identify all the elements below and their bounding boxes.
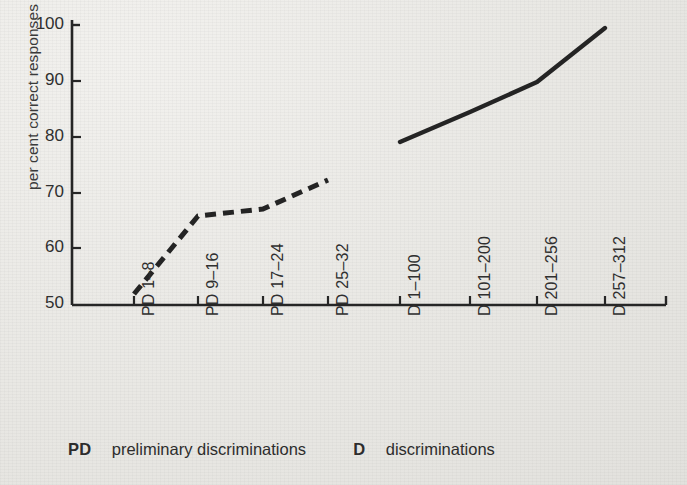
y-tick-label-50: 50: [20, 293, 64, 313]
x-tick-label-d-101-200: D 101–200: [476, 236, 494, 316]
series-preliminary-discriminations: [134, 180, 328, 294]
series-discriminations: [400, 28, 605, 142]
x-tick-label-pd-9-16: PD 9–16: [204, 252, 222, 316]
y-tick-label-60: 60: [20, 237, 64, 257]
x-tick-label-d-257-312: D 257–312: [611, 236, 629, 316]
x-tick-label-pd-1-8: PD 1–8: [140, 261, 158, 316]
figure-canvas: 100 90 80 70 60 50 per cent correct resp…: [0, 0, 687, 485]
legend-text-d: discriminations: [386, 440, 495, 458]
figure-legend: PD preliminary discriminations D discrim…: [68, 440, 495, 459]
x-tick-label-d-1-100: D 1–100: [406, 254, 424, 316]
legend-text-pd: preliminary discriminations: [112, 440, 306, 458]
x-tick-label-pd-17-24: PD 17–24: [269, 243, 287, 316]
legend-key-pd: PD: [68, 440, 92, 458]
y-axis-title: per cent correct responses: [24, 0, 42, 212]
y-tick-marks: [72, 81, 81, 248]
legend-key-d: D: [353, 440, 365, 458]
x-tick-label-d-201-256: D 201–256: [543, 236, 561, 316]
x-tick-label-pd-25-32: PD 25–32: [334, 243, 352, 316]
